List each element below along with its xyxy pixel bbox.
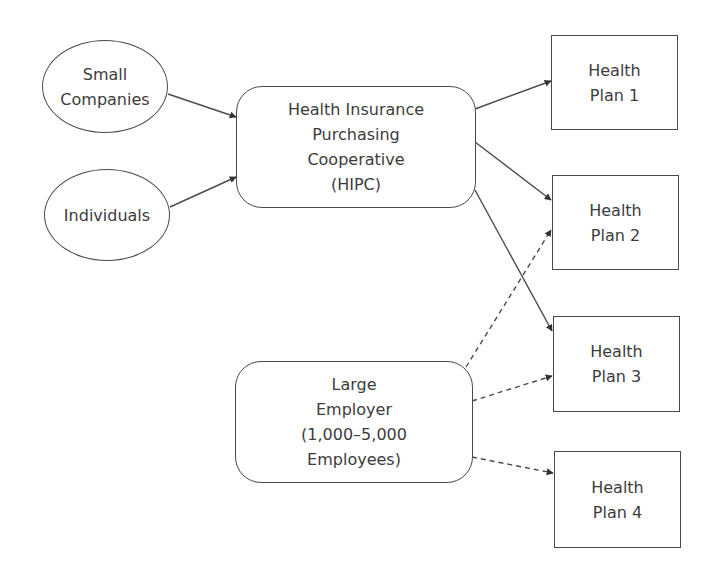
edge-hipc-to-plan1: [475, 81, 551, 109]
node-label: Large Employer (1,000–5,000 Employees): [301, 372, 407, 472]
node-label: Health Plan 4: [591, 475, 644, 525]
node-health-plan-1: Health Plan 1: [551, 35, 678, 130]
node-health-plan-2: Health Plan 2: [552, 175, 679, 270]
node-health-plan-3: Health Plan 3: [553, 316, 680, 412]
node-label: Health Plan 2: [589, 198, 642, 248]
node-label: Individuals: [64, 203, 150, 228]
node-health-plan-4: Health Plan 4: [554, 451, 681, 548]
node-hipc: Health Insurance Purchasing Cooperative …: [236, 86, 476, 208]
node-individuals: Individuals: [44, 169, 170, 261]
node-small-companies: Small Companies: [42, 40, 168, 133]
node-large-employer: Large Employer (1,000–5,000 Employees): [235, 361, 473, 483]
edge-hipc-to-plan2: [475, 142, 551, 200]
edge-small-companies-to-hipc: [168, 94, 236, 117]
edge-hipc-to-plan3: [475, 190, 552, 331]
edge-large-employer-to-plan4: [472, 457, 553, 473]
edge-individuals-to-hipc: [170, 177, 236, 207]
node-label: Health Insurance Purchasing Cooperative …: [288, 97, 424, 197]
node-label: Health Plan 1: [588, 58, 641, 108]
edge-large-employer-to-plan3: [472, 376, 552, 401]
node-label: Health Plan 3: [590, 339, 643, 389]
node-label: Small Companies: [60, 62, 149, 112]
